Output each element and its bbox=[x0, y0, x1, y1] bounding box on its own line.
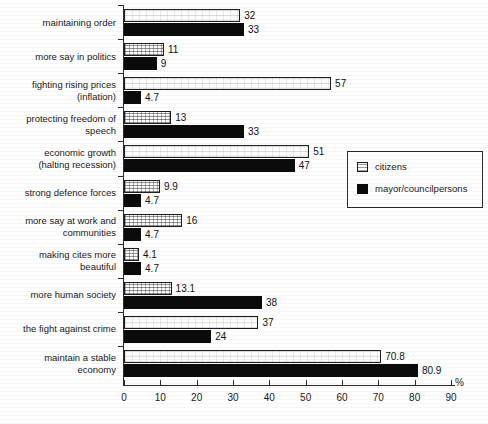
bar-citizens bbox=[124, 214, 182, 227]
bar-value-mayor: 47 bbox=[299, 159, 310, 172]
x-axis-tick bbox=[306, 380, 307, 386]
category-label: maintain a stable economy bbox=[0, 352, 116, 376]
bar-citizens bbox=[124, 111, 171, 124]
bar-citizens bbox=[124, 282, 172, 295]
category-label: more human society bbox=[0, 289, 116, 301]
category-label: economic growth (halting recession) bbox=[0, 147, 116, 171]
x-axis-tick-label: 20 bbox=[191, 392, 202, 403]
bar-value-mayor: 9 bbox=[161, 57, 167, 70]
x-axis-tick bbox=[342, 380, 343, 386]
category-label: maintaining order bbox=[0, 17, 116, 29]
x-axis-tick-label: 60 bbox=[336, 392, 347, 403]
y-axis-tick bbox=[118, 244, 124, 245]
bar-mayor bbox=[124, 125, 244, 138]
x-axis-tick-label: 70 bbox=[373, 392, 384, 403]
legend-label-citizens: citizens bbox=[375, 161, 407, 172]
y-axis-tick bbox=[118, 39, 124, 40]
bar-citizens bbox=[124, 248, 139, 261]
x-axis-tick-label: 40 bbox=[264, 392, 275, 403]
category-label: protecting freedom of speech bbox=[0, 113, 116, 137]
x-axis-tick-label: 0 bbox=[121, 392, 127, 403]
bar-mayor bbox=[124, 57, 157, 70]
category-label: fighting rising prices (inflation) bbox=[0, 79, 116, 103]
bar-value-mayor: 4.7 bbox=[145, 194, 159, 207]
category-label: making cites more beautiful bbox=[0, 249, 116, 273]
bar-mayor bbox=[124, 364, 418, 377]
y-axis-tick bbox=[118, 278, 124, 279]
bar-value-mayor: 4.7 bbox=[145, 91, 159, 104]
x-axis-tick-label: 50 bbox=[300, 392, 311, 403]
bar-value-mayor: 38 bbox=[266, 296, 277, 309]
y-axis-tick bbox=[118, 107, 124, 108]
category-label: more say at work and communities bbox=[0, 215, 116, 239]
bar-citizens bbox=[124, 350, 381, 363]
bar-citizens bbox=[124, 180, 160, 193]
legend-label-mayor: mayor/councilpersons bbox=[375, 183, 467, 194]
x-axis-tick-label: 90 bbox=[445, 392, 456, 403]
bar-mayor bbox=[124, 194, 141, 207]
mayor-swatch-icon bbox=[357, 184, 368, 194]
bar-value-citizens: 57 bbox=[335, 77, 346, 90]
bar-value-citizens: 32 bbox=[244, 9, 255, 22]
bar-mayor bbox=[124, 262, 141, 275]
legend-item-mayor: mayor/councilpersons bbox=[357, 183, 467, 194]
y-axis-tick bbox=[118, 5, 124, 6]
bar-mayor bbox=[124, 330, 211, 343]
x-axis-tick bbox=[197, 380, 198, 386]
bar-value-citizens: 9.9 bbox=[164, 180, 178, 193]
x-axis-tick bbox=[160, 380, 161, 386]
x-axis-tick-label: 10 bbox=[155, 392, 166, 403]
bar-citizens bbox=[124, 145, 309, 158]
bar-citizens bbox=[124, 9, 240, 22]
x-axis-tick-label: 30 bbox=[227, 392, 238, 403]
bar-value-citizens: 16 bbox=[186, 214, 197, 227]
bar-value-mayor: 33 bbox=[248, 23, 259, 36]
y-axis-tick bbox=[118, 312, 124, 313]
bar-value-citizens: 51 bbox=[313, 145, 324, 158]
y-axis-tick bbox=[118, 346, 124, 347]
x-axis-tick bbox=[415, 380, 416, 386]
y-axis-tick bbox=[118, 210, 124, 211]
legend: citizens mayor/councilpersons bbox=[347, 151, 483, 208]
category-label: the fight against crime bbox=[0, 323, 116, 335]
x-axis-tick bbox=[378, 380, 379, 386]
bar-value-citizens: 11 bbox=[168, 43, 178, 56]
x-axis-tick bbox=[451, 380, 452, 386]
bar-chart: maintaining order3233more say in politic… bbox=[0, 0, 488, 424]
y-axis-tick bbox=[118, 176, 124, 177]
x-axis-tick-label: 80 bbox=[409, 392, 420, 403]
bar-mayor bbox=[124, 159, 295, 172]
x-axis-tick bbox=[269, 380, 270, 386]
bar-value-citizens: 4.1 bbox=[143, 248, 157, 261]
citizens-swatch-icon bbox=[357, 162, 368, 172]
category-label: more say in politics bbox=[0, 51, 116, 63]
bar-citizens bbox=[124, 43, 164, 56]
bar-mayor bbox=[124, 91, 141, 104]
bar-value-mayor: 33 bbox=[248, 125, 259, 138]
legend-item-citizens: citizens bbox=[357, 161, 407, 172]
x-axis-line bbox=[123, 385, 455, 386]
bar-mayor bbox=[124, 23, 244, 36]
bar-mayor bbox=[124, 228, 141, 241]
category-label: strong defence forces bbox=[0, 187, 116, 199]
bar-value-citizens: 13.1 bbox=[176, 282, 195, 295]
y-axis-tick bbox=[118, 73, 124, 74]
x-axis-unit-label: % bbox=[455, 377, 464, 388]
y-axis-tick bbox=[118, 141, 124, 142]
bar-value-mayor: 80.9 bbox=[422, 364, 441, 377]
bar-citizens bbox=[124, 77, 331, 90]
bar-value-mayor: 4.7 bbox=[145, 228, 159, 241]
bar-value-mayor: 4.7 bbox=[145, 262, 159, 275]
bar-citizens bbox=[124, 316, 258, 329]
bar-value-mayor: 24 bbox=[215, 330, 226, 343]
bar-value-citizens: 13 bbox=[175, 111, 186, 124]
x-axis-tick bbox=[233, 380, 234, 386]
bar-mayor bbox=[124, 296, 262, 309]
bar-value-citizens: 70.8 bbox=[385, 350, 404, 363]
bar-value-citizens: 37 bbox=[262, 316, 273, 329]
x-axis-tick bbox=[124, 380, 125, 386]
